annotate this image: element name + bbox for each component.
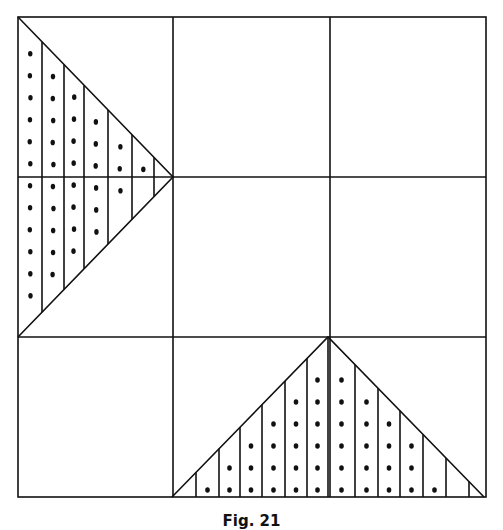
quilt-block-diagram (0, 0, 503, 530)
bottom-triangle-stripes (196, 337, 469, 497)
bottom-shaded-triangle (172, 337, 484, 497)
figure-caption: Fig. 21 (0, 512, 503, 530)
